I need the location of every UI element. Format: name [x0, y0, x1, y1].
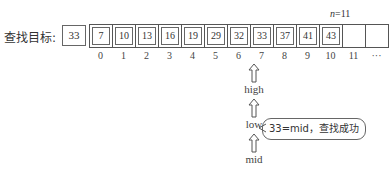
array-cell: 33 [251, 25, 274, 47]
index-label: 10 [319, 50, 342, 61]
array-cell: 43 [320, 25, 343, 47]
cell-value: 33 [253, 27, 271, 45]
array-cell: 41 [297, 25, 320, 47]
array-cell: 32 [228, 25, 251, 47]
result-callout: 33=mid，查找成功 [262, 118, 366, 140]
index-label: 11 [342, 50, 365, 61]
index-label: 8 [273, 50, 296, 61]
array-length-label: n=11 [330, 8, 350, 19]
index-label: 7 [250, 50, 273, 61]
array-cell: 10 [113, 25, 136, 47]
array-cell: 7 [90, 25, 113, 47]
index-label: 0 [89, 50, 112, 61]
cell-value: 7 [92, 27, 110, 45]
cell-value: 10 [115, 27, 133, 45]
cell-value: 13 [138, 27, 156, 45]
index-row: 0 1 2 3 4 5 6 7 8 9 10 11 ··· [89, 50, 388, 61]
index-label: ··· [365, 50, 388, 61]
mid-pointer-label: mid [234, 153, 274, 165]
cell-value: 16 [161, 27, 179, 45]
array: 7 10 13 16 19 29 32 33 37 41 43 [89, 24, 389, 48]
n-eq: =11 [335, 8, 350, 19]
up-arrow-icon [248, 133, 260, 153]
index-label: 4 [181, 50, 204, 61]
array-cell: 16 [159, 25, 182, 47]
index-label: 1 [112, 50, 135, 61]
array-cell: 29 [205, 25, 228, 47]
target-label: 查找目标: [4, 28, 56, 45]
array-cell: 19 [182, 25, 205, 47]
up-arrow-icon [248, 98, 260, 118]
index-label: 9 [296, 50, 319, 61]
cell-value: 19 [184, 27, 202, 45]
index-label: 3 [158, 50, 181, 61]
index-label: 2 [135, 50, 158, 61]
array-cell: 37 [274, 25, 297, 47]
cell-value: 41 [299, 27, 317, 45]
cell-value: 29 [207, 27, 225, 45]
index-label: 6 [227, 50, 250, 61]
up-arrow-icon [248, 63, 260, 83]
cell-value: 32 [230, 27, 248, 45]
target-value-box: 33 [62, 25, 86, 46]
cell-value: 43 [322, 27, 340, 45]
high-pointer-label: high [234, 83, 274, 95]
array-cell-empty [366, 25, 388, 47]
array-cell: 13 [136, 25, 159, 47]
cell-value: 37 [276, 27, 294, 45]
array-cell-empty [343, 25, 366, 47]
index-label: 5 [204, 50, 227, 61]
